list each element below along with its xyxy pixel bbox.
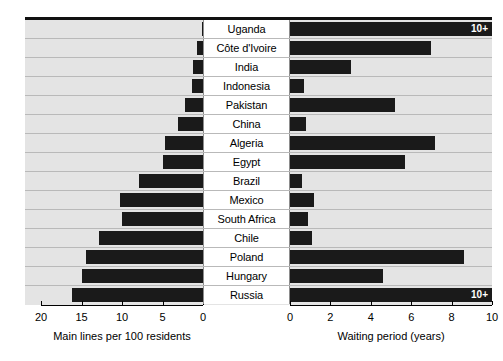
chart-row: India	[25, 58, 492, 77]
category-label-brazil: Brazil	[203, 172, 290, 190]
axis-tick-label: 6	[396, 311, 426, 323]
axis-line	[41, 305, 203, 306]
category-label-algeria: Algeria	[203, 134, 290, 152]
bar-right-indonesia	[290, 79, 304, 93]
bar-right-brazil	[290, 174, 302, 188]
chart-row: Poland	[25, 248, 492, 267]
axis-tick	[122, 301, 123, 305]
axis-tick	[411, 301, 412, 305]
bar-left-algeria	[165, 136, 203, 150]
axis-tick	[452, 301, 453, 305]
bar-left-mexico	[120, 193, 203, 207]
bar-right-poland	[290, 250, 464, 264]
axis-tick-label: 10	[107, 311, 137, 323]
bar-left-poland	[86, 250, 203, 264]
category-label-pakistan: Pakistan	[203, 96, 290, 114]
bar-left-pakistan	[185, 98, 203, 112]
category-label-poland: Poland	[203, 248, 290, 266]
axis-tick-label: 15	[67, 311, 97, 323]
axis-tick	[163, 301, 164, 305]
chart-row: 10+Uganda	[25, 20, 492, 39]
bar-right-russia: 10+	[290, 288, 492, 302]
chart-row: Indonesia	[25, 77, 492, 96]
chart-row: Côte d'Ivoire	[25, 39, 492, 58]
category-label-indonesia: Indonesia	[203, 77, 290, 95]
bar-left-hungary	[82, 269, 204, 283]
bar-left-india	[193, 60, 203, 74]
axis-tick	[82, 301, 83, 305]
bar-left-indonesia	[192, 79, 203, 93]
bar-right-algeria	[290, 136, 435, 150]
category-label-uganda: Uganda	[203, 20, 290, 38]
chart-row: 10+Russia	[25, 286, 492, 305]
axis-line	[290, 305, 492, 306]
bar-right-chile	[290, 231, 312, 245]
chart-row: South Africa	[25, 210, 492, 229]
axis-tick	[330, 301, 331, 305]
bar-left-brazil	[139, 174, 203, 188]
axis-tick-label: 8	[437, 311, 467, 323]
bar-right-china	[290, 117, 306, 131]
axis-tick-label: 20	[26, 311, 56, 323]
bar-right-hungary	[290, 269, 383, 283]
bar-right-c-te-d-ivoire	[290, 41, 431, 55]
bar-value-tag: 10+	[471, 22, 488, 36]
axis-tick-label: 4	[356, 311, 386, 323]
category-label-china: China	[203, 115, 290, 133]
category-label-india: India	[203, 58, 290, 76]
axis-tick	[41, 301, 42, 305]
bar-right-uganda: 10+	[290, 22, 492, 36]
bar-left-egypt	[163, 155, 203, 169]
category-label-c-te-d-ivoire: Côte d'Ivoire	[203, 39, 290, 57]
bar-left-south-africa	[122, 212, 203, 226]
bar-right-mexico	[290, 193, 314, 207]
category-label-egypt: Egypt	[203, 153, 290, 171]
chart-row: Pakistan	[25, 96, 492, 115]
axis-title: Main lines per 100 residents	[12, 330, 232, 342]
bar-left-russia	[72, 288, 203, 302]
bar-right-pakistan	[290, 98, 395, 112]
plot-area: 10+UgandaCôte d'IvoireIndiaIndonesiaPaki…	[25, 20, 492, 305]
category-label-south-africa: South Africa	[203, 210, 290, 228]
chart-row: Algeria	[25, 134, 492, 153]
axis-tick-label: 5	[148, 311, 178, 323]
bar-value-tag: 10+	[471, 288, 488, 302]
bar-right-egypt	[290, 155, 405, 169]
axis-tick-label: 0	[188, 311, 218, 323]
category-label-hungary: Hungary	[203, 267, 290, 285]
chart-row: Mexico	[25, 191, 492, 210]
bar-right-south-africa	[290, 212, 308, 226]
category-label-chile: Chile	[203, 229, 290, 247]
bar-left-chile	[99, 231, 203, 245]
bar-left-china	[178, 117, 203, 131]
bar-right-india	[290, 60, 351, 74]
category-label-russia: Russia	[203, 286, 290, 304]
axis-tick-label: 2	[315, 311, 345, 323]
category-label-mexico: Mexico	[203, 191, 290, 209]
axis-tick-label: 10	[477, 311, 503, 323]
axis-tick	[371, 301, 372, 305]
chart-row: Chile	[25, 229, 492, 248]
axis-tick	[290, 301, 291, 305]
chart-row: China	[25, 115, 492, 134]
chart-row: Egypt	[25, 153, 492, 172]
chart-row: Brazil	[25, 172, 492, 191]
axis-title: Waiting period (years)	[281, 330, 501, 342]
axis-tick	[492, 301, 493, 305]
chart-row: Hungary	[25, 267, 492, 286]
axis-tick-label: 0	[275, 311, 305, 323]
